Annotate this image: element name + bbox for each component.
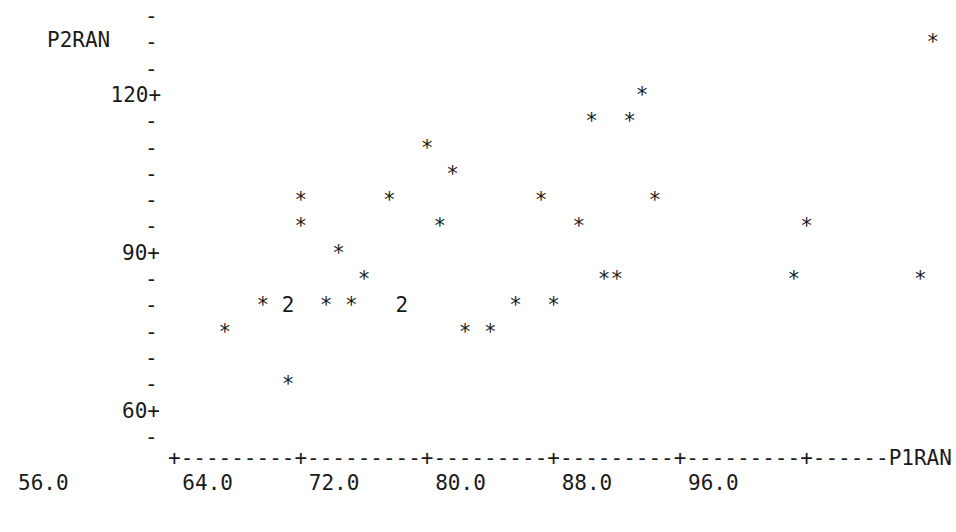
plot-data-row: * * * * bbox=[168, 213, 956, 239]
clipped-bottom-text: + + + + + + + + + + bbox=[18, 524, 899, 532]
plot-data-row: * bbox=[168, 135, 956, 161]
y-axis-variable-label: P2RAN bbox=[47, 27, 110, 53]
plot-data-row: * * bbox=[168, 108, 956, 134]
plot-data-row bbox=[168, 398, 956, 424]
plot-data-row: * ** * * bbox=[168, 266, 956, 292]
plot-data-row: * * * * bbox=[168, 187, 956, 213]
plot-data-row: * * * bbox=[168, 319, 956, 345]
plot-data-row: * bbox=[168, 161, 956, 187]
plot-data-row bbox=[168, 345, 956, 371]
plot-data-row: * bbox=[168, 29, 956, 55]
plot-data-row bbox=[168, 56, 956, 82]
x-axis-rule: +---------+---------+---------+---------… bbox=[168, 445, 952, 471]
plot-data-row: * bbox=[168, 371, 956, 397]
plot-data-row bbox=[168, 3, 956, 29]
plot-data-row: * bbox=[168, 82, 956, 108]
plot-data-row: * bbox=[168, 240, 956, 266]
x-axis-tick-labels: 56.0 64.0 72.0 80.0 88.0 96.0 bbox=[18, 470, 739, 496]
plot-data-row: * 2 * * 2 * * bbox=[168, 292, 956, 318]
